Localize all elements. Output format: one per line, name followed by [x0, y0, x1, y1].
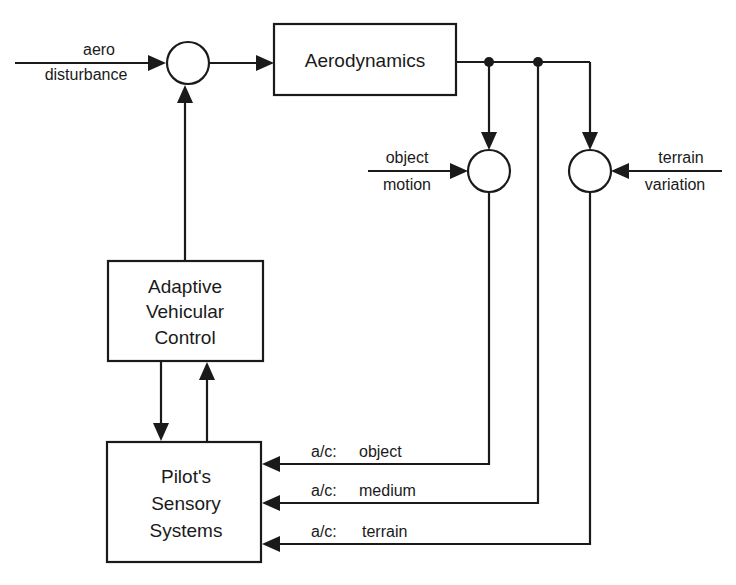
aerodynamics-label: Aerodynamics	[305, 50, 425, 71]
arrow-head-icon	[450, 163, 468, 179]
arrow-head-icon	[148, 55, 166, 71]
arrow-head-icon	[256, 55, 274, 71]
arrow-head-icon	[262, 456, 280, 472]
pilots-label: Pilot's	[161, 466, 211, 487]
edge-control-to-pilot	[153, 361, 169, 441]
arrow-head-icon	[262, 536, 280, 552]
arrow-head-icon	[582, 132, 598, 150]
edge-control-to-sum	[177, 85, 193, 261]
feedback-object-label: object	[359, 443, 402, 460]
aerodynamics-output-bus	[456, 57, 598, 150]
disturbance-label: disturbance	[45, 66, 128, 83]
adaptive-label: Adaptive	[148, 276, 222, 297]
input-terrain-variation: terrain variation	[611, 149, 722, 193]
arrow-head-icon	[481, 132, 497, 150]
motion-label: motion	[383, 176, 431, 193]
arrow-head-icon	[262, 495, 280, 511]
arrow-head-icon	[153, 423, 169, 441]
feedback-object-prefix: a/c:	[311, 443, 337, 460]
feedback-medium-prefix: a/c:	[311, 482, 337, 499]
control-label: Control	[154, 327, 215, 348]
adaptive-control-block: Adaptive Vehicular Control	[108, 261, 263, 361]
arrow-head-icon	[611, 163, 629, 179]
sensory-label: Sensory	[151, 493, 221, 514]
variation-label: variation	[645, 176, 705, 193]
aero-label: aero	[83, 41, 115, 58]
arrow-head-icon	[177, 85, 193, 103]
edge-sum-to-aerodynamics	[209, 55, 274, 71]
aerodynamics-block: Aerodynamics	[274, 24, 456, 95]
main-summing-junction	[167, 42, 209, 84]
object-summing-junction	[468, 150, 510, 192]
vehicular-label: Vehicular	[146, 301, 225, 322]
terrain-summing-junction	[569, 150, 611, 192]
control-block-diagram: aero disturbance Aerodynamics object mot…	[0, 0, 736, 585]
edge-pilot-to-control	[199, 362, 215, 442]
pilot-sensory-block: Pilot's Sensory Systems	[107, 442, 261, 562]
feedback-terrain-label: terrain	[362, 523, 407, 540]
feedback-medium-label: medium	[359, 482, 416, 499]
arrow-head-icon	[199, 362, 215, 380]
feedback-terrain-prefix: a/c:	[311, 523, 337, 540]
input-object-motion: object motion	[368, 149, 468, 193]
feedback-object: a/c: object	[262, 192, 489, 472]
object-label: object	[386, 149, 429, 166]
systems-label: Systems	[150, 520, 223, 541]
terrain-label: terrain	[658, 149, 703, 166]
input-aero-disturbance: aero disturbance	[15, 41, 166, 83]
